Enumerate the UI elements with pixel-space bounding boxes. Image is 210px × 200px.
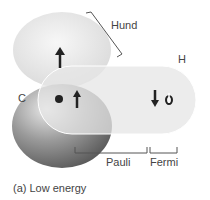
pauli-label: Pauli [106,156,130,168]
fermi-label: Fermi [150,156,178,168]
c-label: C [18,92,26,104]
fermi-bracket [150,147,177,153]
orbital-diagram [0,0,210,200]
caption: (a) Low energy [13,182,86,194]
hund-label: Hund [111,19,137,31]
h-label: H [178,53,186,65]
carbon-nucleus [55,95,63,103]
